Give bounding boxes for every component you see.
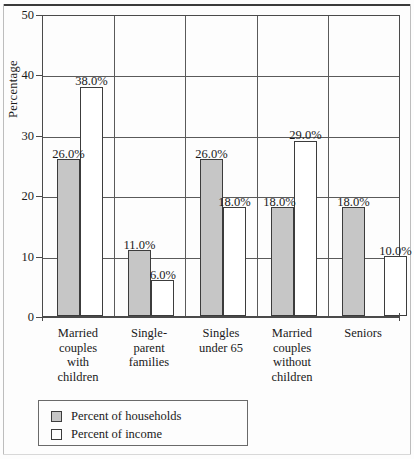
- category-line: families: [114, 355, 184, 370]
- chart-legend: Percent of households Percent of income: [38, 400, 248, 446]
- category-label-single-parent-families: Single- parent families: [114, 326, 184, 370]
- y-tick-label-20: 20: [10, 190, 34, 203]
- bar-value-label-g3-households: 26.0%: [190, 148, 233, 161]
- category-line: Married: [257, 326, 327, 341]
- bar-chart-figure: Percentage 50 40 30 20 10 0 26.0% 38.0% …: [0, 0, 414, 459]
- category-label-singles-under-65: Singles under 65: [186, 326, 256, 355]
- x-axis-right-cap: [399, 313, 400, 321]
- x-axis-line: [42, 317, 400, 318]
- figure-bottom-border: [3, 454, 411, 455]
- bar-value-label-g5-income: 10.0%: [374, 245, 414, 258]
- y-tick-label-30: 30: [10, 130, 34, 143]
- group-separator-1: [114, 16, 115, 316]
- category-line: Single-: [114, 326, 184, 341]
- bar-income-married-with-children[interactable]: [80, 87, 103, 317]
- figure-right-border: [410, 4, 411, 455]
- legend-item-households[interactable]: Percent of households: [51, 408, 181, 424]
- category-label-seniors: Seniors: [328, 326, 398, 341]
- category-line: Married: [43, 326, 113, 341]
- bar-value-label-g1-income: 38.0%: [70, 75, 113, 88]
- category-line: children: [43, 370, 113, 385]
- bar-households-single-parent[interactable]: [128, 250, 151, 316]
- bar-value-label-g2-households: 11.0%: [118, 239, 161, 252]
- legend-label-households: Percent of households: [71, 410, 181, 423]
- y-tick-label-0: 0: [10, 311, 34, 324]
- category-line: without: [257, 355, 327, 370]
- group-separator-3: [257, 16, 258, 316]
- legend-swatch-households-icon: [51, 411, 62, 422]
- category-label-married-with-children: Married couples with children: [43, 326, 113, 384]
- bar-income-seniors[interactable]: [384, 256, 407, 316]
- bar-income-married-without-children[interactable]: [294, 141, 317, 316]
- bar-households-married-with-children[interactable]: [57, 159, 80, 316]
- x-axis-left-cap: [42, 313, 43, 321]
- bar-households-seniors[interactable]: [342, 207, 365, 316]
- bar-value-label-g4-households: 18.0%: [258, 196, 301, 209]
- legend-item-income[interactable]: Percent of income: [51, 426, 162, 442]
- bar-value-label-g5-households: 18.0%: [332, 196, 375, 209]
- bar-value-label-g1-households: 26.0%: [47, 148, 90, 161]
- bar-households-married-without-children[interactable]: [271, 207, 294, 316]
- bar-value-label-g2-income: 6.0%: [143, 269, 183, 282]
- legend-label-income: Percent of income: [71, 428, 162, 441]
- y-tick-label-40: 40: [10, 69, 34, 82]
- category-line: Singles: [186, 326, 256, 341]
- category-line: parent: [114, 341, 184, 356]
- plot-area: 26.0% 38.0% 11.0% 6.0% 26.0% 18.0% 18.0%…: [42, 15, 400, 317]
- figure-top-rule: [3, 4, 411, 6]
- bar-income-single-parent[interactable]: [151, 280, 174, 316]
- bar-income-singles-under-65[interactable]: [223, 207, 246, 316]
- category-line: children: [257, 370, 327, 385]
- legend-swatch-income-icon: [51, 429, 62, 440]
- figure-left-border: [3, 4, 4, 455]
- bar-value-label-g4-income: 29.0%: [284, 129, 327, 142]
- category-line: with: [43, 355, 113, 370]
- category-line: couples: [257, 341, 327, 356]
- bar-value-label-g3-income: 18.0%: [213, 196, 256, 209]
- category-line: couples: [43, 341, 113, 356]
- group-separator-2: [185, 16, 186, 316]
- group-separator-4: [328, 16, 329, 316]
- y-tick-label-10: 10: [10, 251, 34, 264]
- category-line: under 65: [186, 341, 256, 356]
- category-label-married-without-children: Married couples without children: [257, 326, 327, 384]
- y-tick-label-50: 50: [10, 9, 34, 22]
- bar-households-singles-under-65[interactable]: [200, 159, 223, 316]
- category-line: Seniors: [328, 326, 398, 341]
